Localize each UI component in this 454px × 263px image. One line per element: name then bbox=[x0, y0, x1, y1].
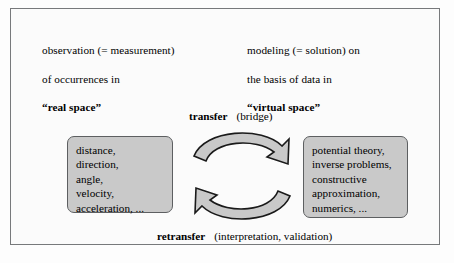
real-space-box-line: velocity, bbox=[76, 186, 172, 200]
header-virtual-space: modeling (= solution) on the basis of da… bbox=[247, 29, 447, 128]
real-space-box: distance, direction, angle, velocity, ac… bbox=[67, 136, 173, 213]
header-real-space-line1: observation (= measurement) bbox=[42, 43, 242, 57]
curved-arrow-left-icon bbox=[195, 188, 290, 219]
retransfer-label-bold: retransfer bbox=[157, 230, 205, 242]
virtual-space-box-line: approximation, bbox=[312, 186, 407, 200]
transfer-cycle-diagram bbox=[188, 123, 296, 229]
transfer-label: transfer(bridge) bbox=[189, 109, 273, 123]
real-space-box-line: angle, bbox=[76, 172, 172, 186]
figure-frame: observation (= measurement) of occurrenc… bbox=[10, 8, 440, 245]
real-space-box-line: acceleration, ... bbox=[76, 201, 172, 215]
header-virtual-space-line2: the basis of data in bbox=[247, 72, 447, 86]
retransfer-label: retransfer(interpretation, validation) bbox=[157, 229, 332, 243]
virtual-space-box-line: numerics, ... bbox=[312, 201, 407, 215]
header-virtual-space-emphasis: “virtual space” bbox=[247, 100, 447, 114]
virtual-space-box-line: constructive bbox=[312, 172, 407, 186]
real-space-box-line: distance, bbox=[76, 143, 172, 157]
header-real-space-line2: of occurrences in bbox=[42, 72, 242, 86]
real-space-box-line: direction, bbox=[76, 157, 172, 171]
virtual-space-box-line: potential theory, bbox=[312, 143, 407, 157]
curved-arrow-right-icon bbox=[194, 133, 289, 164]
retransfer-label-paren: (interpretation, validation) bbox=[214, 230, 332, 242]
header-virtual-space-line1: modeling (= solution) on bbox=[247, 43, 447, 57]
transfer-label-bold: transfer bbox=[189, 110, 228, 122]
virtual-space-box: potential theory, inverse problems, cons… bbox=[303, 136, 408, 218]
transfer-label-paren: (bridge) bbox=[237, 110, 273, 122]
virtual-space-box-line: inverse problems, bbox=[312, 157, 407, 171]
